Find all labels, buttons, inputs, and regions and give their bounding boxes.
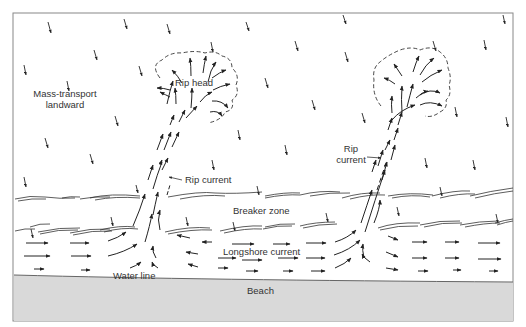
label-longshore-current: Longshore current xyxy=(223,246,300,257)
rip-current-diagram xyxy=(0,0,526,327)
label-water-line: Water line xyxy=(113,270,155,281)
label-rip-current-right-line2: current xyxy=(331,154,371,165)
label-mass-transport-line1: Mass-transport xyxy=(30,88,100,99)
diagram-frame xyxy=(13,13,513,321)
label-rip-current-left: Rip current xyxy=(185,174,231,185)
label-mass-transport: Mass-transport landward xyxy=(30,88,100,110)
label-rip-current-right: Rip current xyxy=(331,143,371,165)
label-breaker-zone: Breaker zone xyxy=(233,205,290,216)
label-mass-transport-line2: landward xyxy=(30,99,100,110)
label-rip-head: Rip head xyxy=(175,77,213,88)
label-beach: Beach xyxy=(247,285,274,296)
label-rip-current-right-line1: Rip xyxy=(331,143,371,154)
